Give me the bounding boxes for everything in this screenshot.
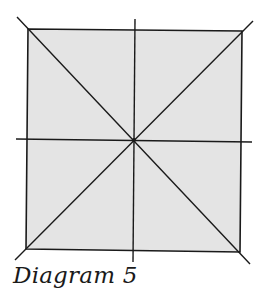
diagram-figure (0, 0, 268, 294)
center-point (132, 138, 136, 142)
diagram-caption: Diagram 5 (13, 262, 138, 288)
